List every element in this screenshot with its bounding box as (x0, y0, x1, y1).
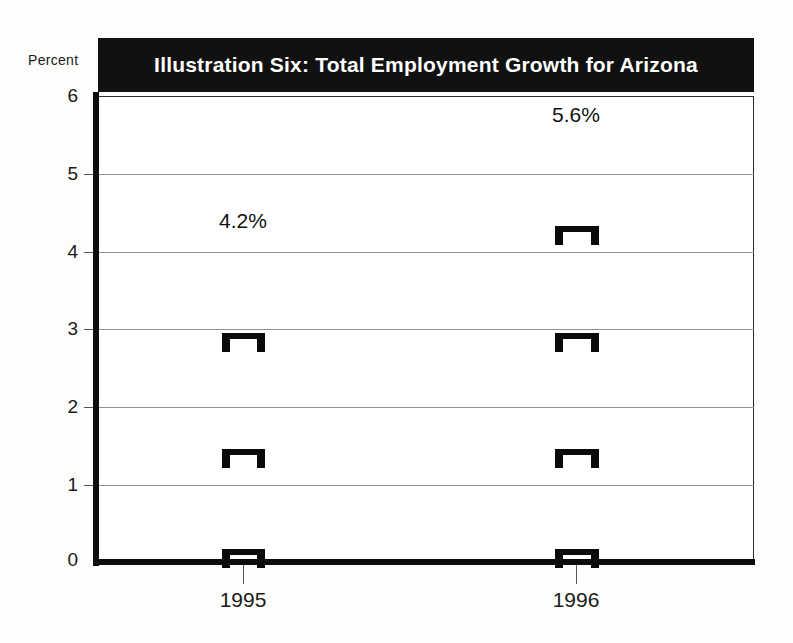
value-label-1996: 5.6% (552, 103, 600, 127)
y-tick-label-4: 4 (34, 241, 78, 263)
y-axis-unit-label: Percent (28, 52, 78, 68)
chart-title: Illustration Six: Total Employment Growt… (154, 53, 698, 77)
briefcase-handle-1995-2 (222, 449, 265, 468)
x-tick-label-1995: 1995 (220, 588, 267, 612)
briefcase-handle-1996-2 (555, 449, 599, 468)
y-tick-label-6: 6 (34, 85, 78, 107)
x-tick-mark-1996 (576, 565, 577, 584)
briefcase-handle-slot-1995-3 (230, 339, 257, 352)
x-axis-line (93, 559, 755, 565)
briefcase-handle-slot-1995-2 (230, 455, 257, 468)
bar-1995 (189, 96, 298, 562)
y-tick-label-2: 2 (34, 396, 78, 418)
y-tick-label-5: 5 (34, 163, 78, 185)
briefcase-handle-1996-3 (555, 333, 599, 352)
briefcase-handle-1995-3 (222, 333, 265, 352)
briefcase-handle-1996-4 (555, 226, 599, 245)
y-tick-label-1: 1 (34, 474, 78, 496)
bar-1996 (521, 96, 633, 562)
briefcase-handle-slot-1996-4 (563, 232, 591, 245)
chart-title-banner: Illustration Six: Total Employment Growt… (98, 38, 754, 92)
y-tick-label-0: 0 (34, 549, 78, 571)
y-tick-label-3: 3 (34, 318, 78, 340)
x-tick-label-1996: 1996 (553, 588, 600, 612)
x-tick-mark-1995 (243, 565, 244, 584)
briefcase-handle-slot-1996-2 (563, 455, 591, 468)
y-axis-line (93, 92, 99, 566)
chart-figure: ng exports as indi tors Illustration Six… (0, 0, 793, 643)
briefcase-handle-slot-1996-3 (563, 339, 591, 352)
value-label-1995: 4.2% (219, 209, 267, 233)
